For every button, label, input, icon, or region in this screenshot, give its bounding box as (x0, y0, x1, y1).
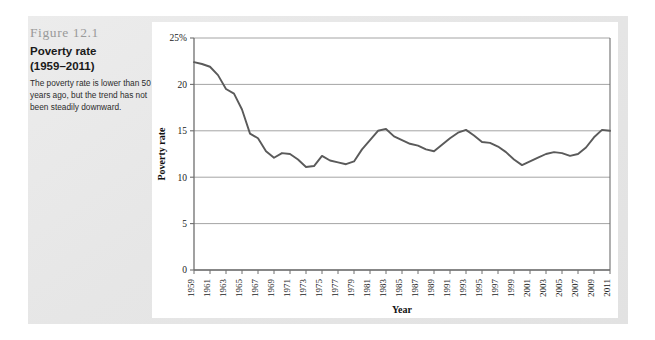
svg-text:1967: 1967 (250, 279, 260, 298)
svg-text:0: 0 (182, 265, 187, 275)
svg-text:20: 20 (178, 80, 188, 90)
y-tick-labels: 0510152025% (170, 33, 194, 275)
svg-text:2003: 2003 (538, 279, 548, 298)
svg-text:1993: 1993 (458, 279, 468, 298)
svg-text:1977: 1977 (330, 279, 340, 298)
svg-text:1959: 1959 (186, 279, 196, 298)
svg-text:1965: 1965 (234, 279, 244, 298)
svg-text:1963: 1963 (218, 279, 228, 298)
svg-text:25%: 25% (170, 33, 188, 43)
poverty-rate-line-chart: 0510152025% 1959196119631965196719691971… (152, 22, 618, 318)
figure-title: Poverty rate (30, 44, 162, 59)
svg-text:1997: 1997 (490, 279, 500, 298)
figure-year-range: (1959–2011) (30, 59, 162, 74)
svg-text:2007: 2007 (570, 279, 580, 298)
svg-text:1985: 1985 (394, 279, 404, 298)
svg-text:1989: 1989 (426, 279, 436, 298)
svg-text:1969: 1969 (266, 279, 276, 298)
y-axis-title: Poverty rate (156, 127, 167, 181)
x-axis-title: Year (392, 304, 413, 315)
svg-text:5: 5 (182, 219, 187, 229)
svg-text:1999: 1999 (506, 279, 516, 298)
page-root: Figure 12.1 Poverty rate (1959–2011) The… (0, 0, 655, 340)
figure-caption: Figure 12.1 Poverty rate (1959–2011) The… (30, 25, 162, 113)
chart-panel: 0510152025% 1959196119631965196719691971… (152, 22, 618, 318)
svg-text:1971: 1971 (282, 279, 292, 297)
svg-text:1975: 1975 (314, 279, 324, 298)
svg-text:1995: 1995 (474, 279, 484, 298)
svg-text:15: 15 (178, 126, 188, 136)
figure-number: Figure 12.1 (30, 25, 162, 42)
svg-text:1961: 1961 (202, 279, 212, 297)
svg-text:1973: 1973 (298, 279, 308, 298)
x-tick-labels: 1959196119631965196719691971197319751977… (186, 270, 612, 297)
svg-text:1981: 1981 (362, 279, 372, 297)
svg-text:1979: 1979 (346, 279, 356, 298)
data-line-series-poverty-rate (194, 62, 610, 167)
svg-text:10: 10 (178, 173, 188, 183)
svg-text:1983: 1983 (378, 279, 388, 298)
svg-text:1987: 1987 (410, 279, 420, 298)
svg-text:2001: 2001 (522, 279, 532, 297)
svg-text:2011: 2011 (602, 279, 612, 297)
svg-text:2009: 2009 (586, 279, 596, 298)
svg-text:1991: 1991 (442, 279, 452, 297)
figure-description: The poverty rate is lower than 50 years … (30, 77, 162, 113)
svg-text:2005: 2005 (554, 279, 564, 298)
